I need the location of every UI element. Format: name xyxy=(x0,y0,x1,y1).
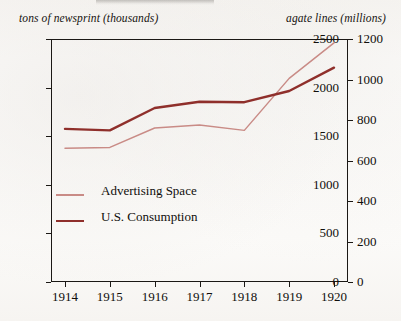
right-axis-tick xyxy=(348,282,353,283)
chart-figure: tons of newsprint (thousands) agate line… xyxy=(0,0,401,321)
legend-label: U.S. Consumption xyxy=(101,209,197,225)
left-axis-caption: tons of newsprint (thousands) xyxy=(19,12,158,24)
right-axis-tick-label: 1200 xyxy=(357,31,383,47)
legend-line-swatch xyxy=(56,194,84,196)
bottom-axis-tick xyxy=(200,282,201,287)
series-line xyxy=(65,43,334,148)
x-axis-tick-label: 1915 xyxy=(97,289,123,305)
right-axis-caption: agate lines (millions) xyxy=(286,12,386,24)
x-axis-tick-label: 1914 xyxy=(52,289,78,305)
scan-edge-artifact xyxy=(96,0,214,5)
right-axis-tick-label: 600 xyxy=(357,153,377,169)
chart-legend: Advertising SpaceU.S. Consumption xyxy=(56,183,266,235)
right-axis-tick xyxy=(348,161,353,162)
right-axis-tick-label: 200 xyxy=(357,234,377,250)
x-axis-tick-label: 1918 xyxy=(231,289,257,305)
x-axis-tick-label: 1919 xyxy=(276,289,302,305)
right-axis-tick-label: 400 xyxy=(357,193,377,209)
right-axis-tick xyxy=(348,120,353,121)
right-axis-tick-label: 1000 xyxy=(357,72,383,88)
legend-item: Advertising Space xyxy=(56,183,266,209)
right-axis-tick-label: 0 xyxy=(357,274,364,290)
x-axis-tick-label: 1916 xyxy=(142,289,168,305)
legend-label: Advertising Space xyxy=(101,183,197,199)
legend-item: U.S. Consumption xyxy=(56,209,266,235)
right-axis-tick xyxy=(348,39,353,40)
right-axis-tick xyxy=(348,242,353,243)
legend-line-swatch xyxy=(56,220,84,222)
bottom-axis-tick xyxy=(244,282,245,287)
series-lines xyxy=(51,39,348,282)
series-line xyxy=(65,68,334,131)
right-axis-tick xyxy=(348,201,353,202)
bottom-axis-tick xyxy=(110,282,111,287)
bottom-axis-tick xyxy=(155,282,156,287)
right-axis-tick xyxy=(348,80,353,81)
bottom-axis-tick xyxy=(334,282,335,287)
left-axis-tick xyxy=(46,282,51,283)
plot-area: 05001000150020002500 0200400600800100012… xyxy=(51,39,348,282)
x-axis-tick-label: 1917 xyxy=(187,289,213,305)
x-axis-tick-label: 1920 xyxy=(321,289,347,305)
bottom-axis-tick xyxy=(65,282,66,287)
right-axis-tick-label: 800 xyxy=(357,112,377,128)
bottom-axis-tick xyxy=(289,282,290,287)
